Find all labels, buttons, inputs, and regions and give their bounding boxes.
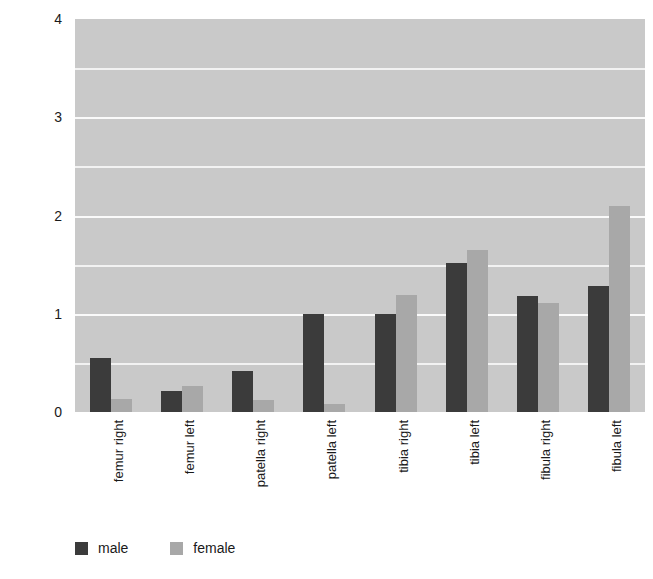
x-tick-label: tibia left [467,420,482,465]
bar-group [360,19,431,412]
bar-group [431,19,502,412]
bar-female[interactable] [182,386,203,412]
bar-group [146,19,217,412]
x-tick-cell: fibula right [503,412,574,522]
bar-female[interactable] [111,399,132,412]
legend-label: male [98,540,128,556]
x-tick-label: femur right [111,420,126,482]
bar-group [289,19,360,412]
bar-male[interactable] [588,286,609,412]
bar-male[interactable] [90,358,111,412]
legend-swatch-icon [170,542,183,555]
x-tick-label: femur left [182,420,197,474]
legend-entry-female[interactable]: female [170,540,235,556]
y-tick-label: 2 [54,208,62,224]
plot-area [75,19,645,412]
legend-label: female [193,540,235,556]
y-tick-label: 1 [54,306,62,322]
x-tick-label: patella left [324,420,339,479]
bar-groups [75,19,645,412]
bar-male[interactable] [232,371,253,412]
bar-group [503,19,574,412]
x-tick-cell: fibula left [574,412,645,522]
x-tick-label: tibia right [396,420,411,473]
bar-group [218,19,289,412]
x-tick-label: fibula right [538,420,553,480]
y-tick-label: 0 [54,404,62,420]
x-tick-cell: tibia right [360,412,431,522]
x-tick-cell: patella left [289,412,360,522]
y-tick-label: 3 [54,109,62,125]
bar-female[interactable] [253,400,274,412]
legend-swatch-icon [75,542,88,555]
bar-male[interactable] [375,314,396,412]
legend-entry-male[interactable]: male [75,540,128,556]
bar-group [75,19,146,412]
chart-legend: malefemale [75,540,277,556]
bar-male[interactable] [161,391,182,412]
x-tick-cell: femur left [146,412,217,522]
bar-female[interactable] [324,404,345,412]
x-tick-label: patella right [253,420,268,487]
x-tick-cell: patella right [218,412,289,522]
x-tick-cell: tibia left [431,412,502,522]
bar-male[interactable] [446,263,467,412]
bar-female[interactable] [609,206,630,412]
bar-female[interactable] [396,295,417,412]
y-tick-label: 4 [54,11,62,27]
bar-group [574,19,645,412]
x-axis-tick-labels: femur rightfemur leftpatella rightpatell… [75,412,645,522]
x-tick-label: fibula left [609,420,624,472]
bar-female[interactable] [467,250,488,412]
bar-female[interactable] [538,303,559,412]
chart-figure: % prevalence 01234 femur rightfemur left… [0,0,653,579]
y-axis-tick-labels: 01234 [0,0,75,579]
x-tick-cell: femur right [75,412,146,522]
bar-male[interactable] [517,296,538,412]
bar-male[interactable] [303,314,324,412]
